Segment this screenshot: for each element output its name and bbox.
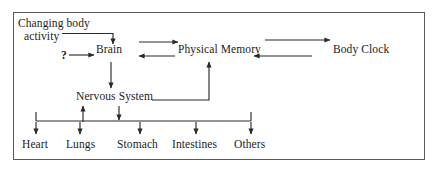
- node-physical-memory: Physical Memory: [178, 43, 261, 56]
- node-body-clock: Body Clock: [333, 43, 389, 56]
- node-others: Others: [234, 138, 265, 151]
- node-lungs: Lungs: [66, 138, 95, 151]
- node-label-line1: Changing body: [18, 17, 90, 30]
- connector-nervous-to-memory: [152, 62, 209, 100]
- node-question-mark: ?: [61, 49, 67, 61]
- node-nervous-system: Nervous System: [76, 90, 153, 103]
- node-label-line2: activity: [18, 30, 90, 43]
- node-brain: Brain: [96, 43, 122, 56]
- node-intestines: Intestines: [172, 138, 217, 151]
- node-stomach: Stomach: [117, 138, 158, 151]
- node-changing-body-activity: Changing body activity: [18, 17, 90, 43]
- node-heart: Heart: [22, 138, 48, 151]
- diagram-canvas: Changing body activity ? Brain Physical …: [0, 0, 448, 174]
